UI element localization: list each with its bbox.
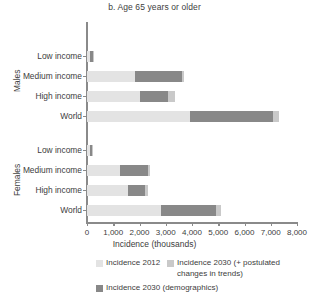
x-tick-label-7000: 7,000 [261,228,281,237]
x-axis-title: Incidence (thousands) [0,239,309,249]
segment-incidence-2030-demographics [140,91,168,102]
segment-incidence-2012 [87,205,161,216]
x-tick-5000 [218,222,219,226]
legend-swatch-incidence-2030-postulated [167,260,174,267]
legend-swatch-incidence-2030-demographics [96,285,103,292]
segment-incidence-2012 [87,185,128,196]
x-tick-label-5000: 5,000 [208,228,228,237]
legend-label-incidence-2012: Incidence 2012 [106,258,160,269]
legend-item-incidence-2030-postulated: Incidence 2030 (+ postulated changes in … [167,258,287,279]
x-tick-label-0: 0 [85,228,89,237]
x-tick-6000 [245,222,246,226]
segment-incidence-2012 [87,165,120,176]
y-label-males-world: World [2,111,82,121]
y-label-females-world: World [2,205,82,215]
group-label-males: Males [12,70,22,92]
x-tick-8000 [297,222,298,226]
x-tick-7000 [271,222,272,226]
segment-incidence-2030-demographics [135,71,182,82]
y-label-males-low-income: Low income [2,51,82,61]
y-label-females-low-income: Low income [2,145,82,155]
legend-item-incidence-2012: Incidence 2012 [96,258,160,269]
x-tick-3000 [166,222,167,226]
segment-incidence-2030-postulated [148,165,150,176]
x-tick-label-3000: 3,000 [156,228,176,237]
segment-incidence-2030-postulated [168,91,175,102]
segment-incidence-2012 [87,111,190,122]
x-tick-label-8000: 8,000 [287,228,307,237]
x-tick-label-2000: 2,000 [129,228,149,237]
segment-incidence-2030-postulated [182,71,184,82]
segment-incidence-2030-demographics [120,165,148,176]
legend-item-incidence-2030-demographics: Incidence 2030 (demographics) [96,283,218,294]
chart-title: b. Age 65 years or older [0,2,309,12]
x-tick-4000 [192,222,193,226]
x-tick-label-4000: 4,000 [182,228,202,237]
segment-incidence-2012 [87,91,140,102]
segment-incidence-2030-postulated [145,185,148,196]
legend-label-incidence-2030-postulated: Incidence 2030 (+ postulated changes in … [177,258,280,279]
x-tick-label-6000: 6,000 [234,228,254,237]
segment-incidence-2030-postulated [216,205,221,216]
x-tick-0 [87,222,88,226]
plot-area: 01,0002,0003,0004,0005,0006,0007,0008,00… [87,22,297,222]
chart-figure: b. Age 65 years or older Low income Medi… [0,0,309,304]
x-tick-1000 [113,222,114,226]
y-label-males-high-income: High income [2,91,82,101]
x-tick-2000 [140,222,141,226]
legend-swatch-incidence-2012 [96,260,103,267]
segment-incidence-2030-demographics [128,185,145,196]
segment-incidence-2030-demographics [161,205,216,216]
group-label-females: Females [12,164,22,196]
segment-incidence-2012 [87,71,135,82]
legend-label-incidence-2030-demographics: Incidence 2030 (demographics) [106,283,218,294]
segment-incidence-2030-demographics [190,111,272,122]
segment-incidence-2030-postulated [273,111,279,122]
x-tick-label-1000: 1,000 [103,228,123,237]
segment-incidence-2030-postulated [93,51,94,62]
